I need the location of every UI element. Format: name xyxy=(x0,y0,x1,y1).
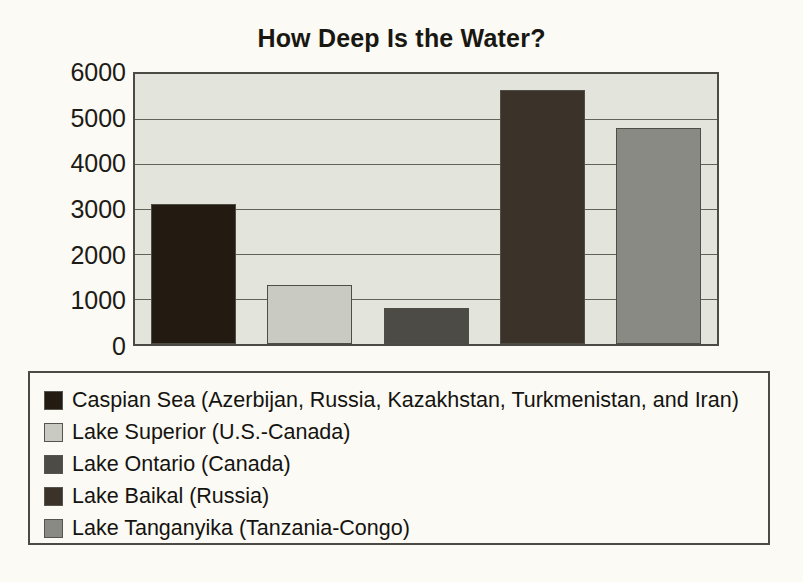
y-axis-tick-label: 0 xyxy=(6,334,126,359)
y-axis-tick-label: 4000 xyxy=(6,151,126,176)
bar xyxy=(616,128,701,344)
y-axis-tick-label: 5000 xyxy=(6,106,126,131)
bar xyxy=(151,204,236,344)
bar xyxy=(384,308,469,344)
y-axis-tick-label: 1000 xyxy=(6,288,126,313)
legend-color-swatch xyxy=(44,487,63,506)
legend-item: Lake Superior (U.S.-Canada) xyxy=(44,417,768,447)
y-axis-tick-label: 6000 xyxy=(6,60,126,85)
legend-item-label: Lake Superior (U.S.-Canada) xyxy=(72,420,350,445)
plot-area xyxy=(133,72,719,346)
legend-item: Lake Tanganyika (Tanzania-Congo) xyxy=(44,513,768,543)
bars-group xyxy=(135,74,717,344)
bar xyxy=(500,90,585,344)
legend-item: Lake Baikal (Russia) xyxy=(44,481,768,511)
legend-item: Caspian Sea (Azerbijan, Russia, Kazakhst… xyxy=(44,385,768,415)
y-axis-tick-label: 3000 xyxy=(6,197,126,222)
legend-item: Lake Ontario (Canada) xyxy=(44,449,768,479)
legend-item-label: Lake Ontario (Canada) xyxy=(72,452,291,477)
y-axis: 6000500040003000200010000 xyxy=(0,0,126,400)
legend-item-label: Lake Tanganyika (Tanzania-Congo) xyxy=(72,516,410,541)
legend-color-swatch xyxy=(44,519,63,538)
y-axis-tick-label: 2000 xyxy=(6,243,126,268)
legend-color-swatch xyxy=(44,391,63,410)
legend-item-label: Caspian Sea (Azerbijan, Russia, Kazakhst… xyxy=(72,388,739,413)
legend-color-swatch xyxy=(44,455,63,474)
bar xyxy=(267,285,352,344)
chart-page: How Deep Is the Water? 60005000400030002… xyxy=(0,0,803,582)
legend-color-swatch xyxy=(44,423,63,442)
legend-item-label: Lake Baikal (Russia) xyxy=(72,484,269,509)
legend: Caspian Sea (Azerbijan, Russia, Kazakhst… xyxy=(28,371,770,545)
